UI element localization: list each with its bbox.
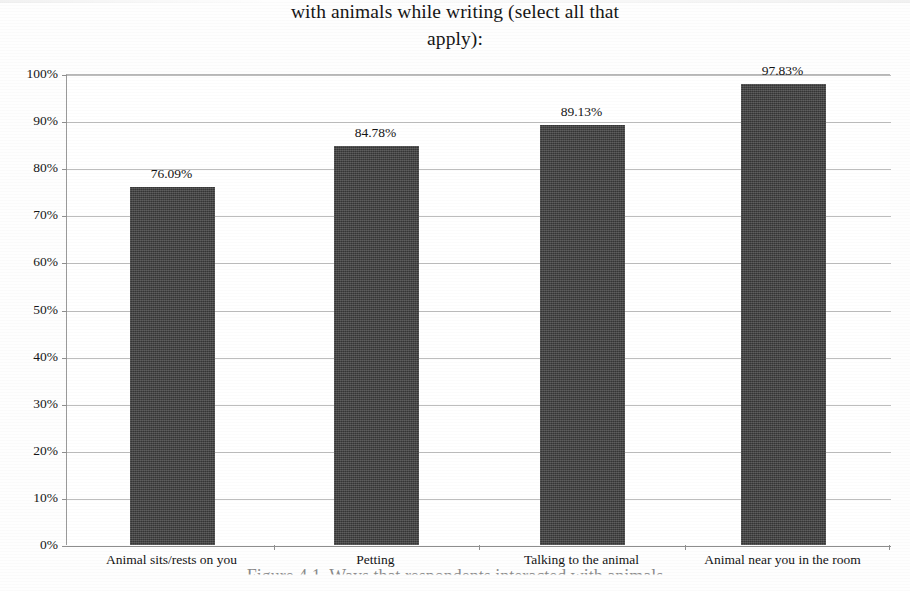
y-axis-label: 100%	[0, 67, 58, 81]
y-axis-label: 70%	[0, 208, 58, 222]
y-axis-label: 0%	[0, 538, 58, 552]
chart-title-line-1: with animals while writing (select all t…	[0, 0, 910, 25]
x-axis-tick	[685, 545, 686, 550]
y-axis-tick	[62, 263, 67, 264]
x-axis-tick	[274, 545, 275, 550]
bar[interactable]	[334, 146, 419, 545]
y-axis-tick	[62, 546, 67, 547]
y-axis-label: 90%	[0, 114, 58, 128]
y-axis-label: 60%	[0, 255, 58, 269]
x-axis-tick	[479, 545, 480, 550]
plot-area	[66, 74, 890, 545]
y-axis-tick	[62, 358, 67, 359]
bar-value-label: 89.13%	[522, 105, 642, 119]
bar[interactable]	[540, 125, 625, 545]
y-axis-tick	[62, 311, 67, 312]
scanned-page: with animals while writing (select all t…	[0, 0, 910, 591]
bar-value-label: 97.83%	[723, 64, 843, 78]
y-axis-tick	[62, 452, 67, 453]
page-footer-text: Figure 4.1. Ways that respondents intera…	[0, 566, 910, 586]
y-axis-tick	[62, 499, 67, 500]
y-axis-tick	[62, 122, 67, 123]
x-axis-tick	[889, 545, 890, 550]
chart-title-line-2: apply):	[0, 25, 910, 52]
y-axis-tick	[62, 75, 67, 76]
y-axis-label: 80%	[0, 161, 58, 175]
bar[interactable]	[130, 187, 215, 545]
y-axis-tick	[62, 405, 67, 406]
y-axis-label: 50%	[0, 303, 58, 317]
bar-value-label: 84.78%	[316, 126, 436, 140]
y-axis-tick	[62, 169, 67, 170]
y-axis-tick	[62, 216, 67, 217]
y-axis-label: 10%	[0, 491, 58, 505]
y-axis-label: 20%	[0, 444, 58, 458]
bar[interactable]	[741, 84, 826, 545]
y-axis-label: 30%	[0, 397, 58, 411]
bar-value-label: 76.09%	[112, 167, 232, 181]
chart-title: with animals while writing (select all t…	[0, 0, 910, 52]
y-axis-label: 40%	[0, 350, 58, 364]
x-axis-label: Animal near you in the room	[653, 552, 910, 567]
